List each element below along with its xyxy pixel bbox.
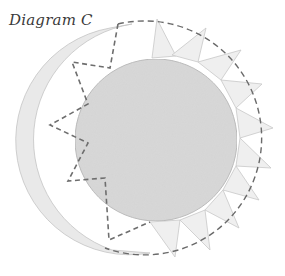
inner-circle [75, 59, 237, 221]
diagram-c [0, 0, 285, 276]
